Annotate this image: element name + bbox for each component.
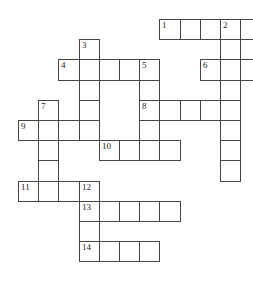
grid-cell[interactable] [58,181,80,202]
grid-cell[interactable]: 9 [18,120,39,141]
clue-number: 6 [203,60,208,71]
grid-cell[interactable] [38,120,59,141]
grid-cell[interactable]: 10 [99,140,120,161]
grid-cell[interactable]: 2 [220,19,241,40]
clue-number: 2 [223,20,228,31]
grid-cell[interactable] [200,19,221,40]
grid-cell[interactable] [139,140,160,161]
grid-cell[interactable] [200,100,221,121]
clue-number: 14 [82,242,91,253]
clue-number: 13 [82,202,91,213]
grid-cell[interactable] [119,59,140,81]
crossword-grid: 1234567891011121314 [0,0,253,301]
grid-cell[interactable] [79,100,100,121]
grid-cell[interactable] [99,59,120,81]
grid-cell[interactable] [240,59,253,81]
clue-number: 10 [102,141,111,152]
grid-cell[interactable]: 13 [79,201,100,222]
clue-number: 7 [41,101,46,112]
grid-cell[interactable] [99,201,120,222]
clue-number: 5 [142,60,147,71]
grid-cell[interactable] [38,181,59,202]
grid-cell[interactable]: 4 [58,59,80,81]
grid-cell[interactable]: 5 [139,59,160,81]
grid-cell[interactable] [79,80,100,101]
grid-cell[interactable] [240,19,253,40]
clue-number: 12 [82,182,91,193]
grid-cell[interactable] [119,140,140,161]
grid-cell[interactable] [220,39,241,60]
grid-cell[interactable] [139,241,160,262]
grid-cell[interactable] [119,201,140,222]
grid-cell[interactable]: 6 [200,59,221,81]
grid-cell[interactable] [79,120,100,141]
grid-cell[interactable] [139,80,160,101]
grid-cell[interactable] [159,201,181,222]
grid-cell[interactable]: 11 [18,181,39,202]
grid-cell[interactable] [180,100,201,121]
clue-number: 3 [82,40,87,51]
grid-cell[interactable] [159,100,181,121]
grid-cell[interactable] [139,201,160,222]
grid-cell[interactable] [79,59,100,81]
grid-cell[interactable]: 3 [79,39,100,60]
grid-cell[interactable] [58,120,80,141]
clue-number: 9 [21,121,26,132]
clue-number: 4 [61,60,66,71]
grid-cell[interactable] [139,120,160,141]
grid-cell[interactable]: 12 [79,181,100,202]
grid-cell[interactable] [220,160,241,182]
grid-cell[interactable] [38,140,59,161]
grid-cell[interactable]: 8 [139,100,160,121]
grid-cell[interactable]: 1 [159,19,181,40]
clue-number: 11 [21,182,30,193]
grid-cell[interactable] [220,80,241,101]
grid-cell[interactable] [220,120,241,141]
clue-number: 8 [142,101,147,112]
grid-cell[interactable] [220,100,241,121]
grid-cell[interactable] [119,241,140,262]
grid-cell[interactable] [220,59,241,81]
grid-cell[interactable]: 14 [79,241,100,262]
grid-cell[interactable] [220,140,241,161]
clue-number: 1 [162,20,167,31]
grid-cell[interactable] [99,241,120,262]
grid-cell[interactable] [38,160,59,182]
grid-cell[interactable]: 7 [38,100,59,121]
grid-cell[interactable] [180,19,201,40]
grid-cell[interactable] [159,140,181,161]
grid-cell[interactable] [79,221,100,242]
